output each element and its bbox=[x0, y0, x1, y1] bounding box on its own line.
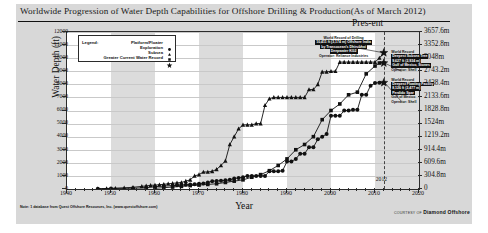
x-tick-1980: 1980 bbox=[227, 190, 257, 196]
x-tickmark-1964 bbox=[172, 188, 173, 191]
right-tickmark-1 bbox=[418, 175, 422, 176]
x-tick-1950: 1950 bbox=[95, 190, 125, 196]
right-tick-5: 1524m bbox=[424, 118, 444, 126]
annotation-subsea-record: World RecordDeepest Subsea Tree9,627 ft … bbox=[391, 50, 451, 72]
x-tickmark-2016 bbox=[400, 188, 401, 191]
right-tick-4: 1219.2m bbox=[424, 131, 449, 139]
courtesy-prefix: COURTESY OF bbox=[394, 211, 422, 215]
right-tick-1: 304.8m bbox=[424, 171, 446, 179]
y-tickmark-4000 bbox=[62, 136, 66, 137]
x-tickmark-2014 bbox=[392, 188, 393, 191]
y-tickmark-7000 bbox=[62, 96, 66, 97]
x-tick-1960: 1960 bbox=[139, 190, 169, 196]
annotation-drilling-record: World Record of Drilling10,411 ft (3,174… bbox=[304, 36, 384, 58]
right-tick-6: 1828.8m bbox=[424, 105, 449, 113]
x-tickmark-1974 bbox=[216, 188, 217, 191]
x-tickmark-1984 bbox=[260, 188, 261, 191]
right-tickmark-4 bbox=[418, 136, 422, 137]
right-tick-3: 914.4m bbox=[424, 145, 446, 153]
y-tickmark-10000 bbox=[62, 57, 66, 58]
y-tickmark-1000 bbox=[62, 175, 66, 176]
footnote: Note: 1 database from Quest Offshore Res… bbox=[20, 205, 157, 209]
x-tick-2020: 2020 bbox=[403, 190, 433, 196]
x-tickmark-1944 bbox=[84, 188, 85, 191]
chart-screenshot: Worldwide Progression of Water Depth Cap… bbox=[0, 0, 488, 233]
legend-title: Legend: bbox=[82, 40, 98, 45]
courtesy-credit: COURTESY OF Diamond Offshore bbox=[394, 209, 470, 215]
y-tickmark-6000 bbox=[62, 110, 66, 111]
x-tickmark-1996 bbox=[312, 188, 313, 191]
star-marker bbox=[166, 55, 173, 62]
annotation-drilling-record-line-4: Operator: Reliance Industries bbox=[304, 54, 384, 58]
x-tick-1990: 1990 bbox=[271, 190, 301, 196]
right-tickmark-6 bbox=[418, 110, 422, 111]
y-tickmark-11000 bbox=[62, 44, 66, 45]
present-label: Pres-ent bbox=[352, 18, 383, 28]
y-tickmark-2000 bbox=[62, 162, 66, 163]
x-tickmark-1986 bbox=[268, 188, 269, 191]
annotation-drilling-record-emph-3: Deepwater KG2 bbox=[330, 49, 358, 53]
x-tickmark-1966 bbox=[180, 188, 181, 191]
right-tickmark-2 bbox=[418, 162, 422, 163]
x-tickmark-2004 bbox=[348, 188, 349, 191]
y-tickmark-5000 bbox=[62, 123, 66, 124]
y-tickmark-3000 bbox=[62, 149, 66, 150]
right-tickmark-3 bbox=[418, 149, 422, 150]
x-tick-2010: 2010 bbox=[359, 190, 389, 196]
courtesy-brand: Diamond Offshore bbox=[423, 209, 470, 215]
right-tick-2: 609.6m bbox=[424, 158, 446, 166]
x-tickmark-1956 bbox=[136, 188, 137, 191]
right-tickmark-5 bbox=[418, 123, 422, 124]
x-tickmark-2006 bbox=[356, 188, 357, 191]
x-tickmark-1954 bbox=[128, 188, 129, 191]
y-tickmark-9000 bbox=[62, 70, 66, 71]
title-underline bbox=[18, 21, 450, 22]
legend-label-3: Greater Current Water Record bbox=[104, 55, 163, 60]
y-tickmark-12000 bbox=[62, 31, 66, 32]
annotation-subsea-record-line-4: Operator: Shell bbox=[391, 68, 451, 72]
annotation-subsea-record-emph-3: Gulf of Mexico, Stones bbox=[391, 63, 431, 67]
y-tickmark-8000 bbox=[62, 83, 66, 84]
right-tickmark-11 bbox=[418, 44, 422, 45]
chart-title-wrap: Worldwide Progression of Water Depth Cap… bbox=[20, 6, 450, 22]
x-tickmark-1994 bbox=[304, 188, 305, 191]
year-2012-label: 2012 bbox=[376, 176, 387, 182]
x-tickmark-1946 bbox=[92, 188, 93, 191]
legend-box: Legend: Platform/FloaterExplorationSubse… bbox=[78, 35, 176, 62]
x-tick-1940: 1940 bbox=[51, 190, 81, 196]
right-tick-12: 3657.6m bbox=[424, 27, 449, 35]
right-tick-11: 3352.8m bbox=[424, 40, 449, 48]
annotation-platform-record-line-5: Operator: Shell bbox=[391, 100, 451, 104]
x-tickmark-1976 bbox=[224, 188, 225, 191]
page-title: Worldwide Progression of Water Depth Cap… bbox=[20, 6, 450, 16]
star-marker bbox=[167, 62, 173, 67]
x-tick-1970: 1970 bbox=[183, 190, 213, 196]
x-tick-2000: 2000 bbox=[315, 190, 345, 196]
right-tickmark-12 bbox=[418, 31, 422, 32]
annotation-platform-record: World RecordDeepest Floating Facility8,1… bbox=[391, 78, 451, 104]
